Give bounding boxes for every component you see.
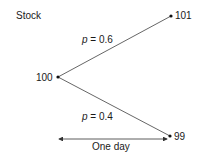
down-branch-line <box>58 77 170 136</box>
node-down-label: 99 <box>174 131 185 143</box>
node-start-label: 100 <box>36 72 53 84</box>
up-branch-line <box>58 16 171 77</box>
up-probability-label: p = 0.6 <box>82 34 113 46</box>
node-up-dot <box>169 14 172 17</box>
node-start-dot <box>56 75 59 78</box>
node-down-dot <box>168 134 171 137</box>
diagram-title: Stock <box>16 10 41 22</box>
node-up-label: 101 <box>175 10 192 22</box>
down-probability-label: p = 0.4 <box>82 111 113 123</box>
time-label: One day <box>92 141 130 153</box>
